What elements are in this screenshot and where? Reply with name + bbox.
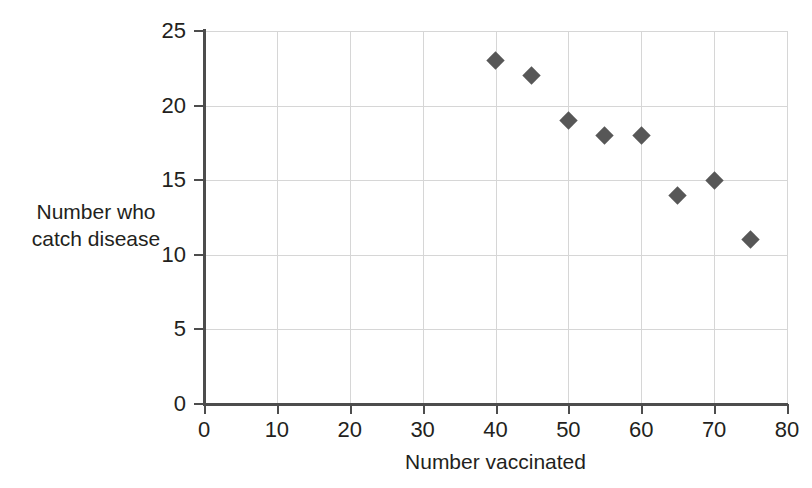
- gridline-vertical: [277, 31, 278, 404]
- gridline-horizontal: [204, 31, 787, 32]
- gridline-horizontal: [204, 106, 787, 107]
- gridline-vertical: [568, 31, 569, 404]
- x-axis-tick-label: 30: [393, 417, 453, 443]
- x-axis-tick-label: 60: [611, 417, 671, 443]
- gridline-horizontal: [204, 180, 787, 181]
- x-axis-tick: [423, 404, 425, 414]
- x-axis-tick-label: 40: [466, 417, 526, 443]
- y-axis-tick-label: 0: [128, 391, 186, 417]
- y-axis-line: [203, 29, 206, 406]
- x-axis-tick: [350, 404, 352, 414]
- gridline-vertical: [350, 31, 351, 404]
- x-axis-tick-label: 10: [247, 417, 307, 443]
- x-axis-tick-label: 80: [757, 417, 812, 443]
- gridline-horizontal: [204, 255, 787, 256]
- x-axis-tick: [787, 404, 789, 414]
- x-axis-tick: [641, 404, 643, 414]
- y-axis-tick-label: 25: [128, 18, 186, 44]
- y-axis-title-line: Number who: [8, 198, 184, 225]
- x-axis-title: Number vaccinated: [204, 449, 787, 475]
- y-axis-title: Number whocatch disease: [8, 198, 184, 252]
- gridline-vertical: [714, 31, 715, 404]
- y-axis-title-line: catch disease: [8, 225, 184, 252]
- x-axis-tick: [714, 404, 716, 414]
- y-axis-tick-label: 5: [128, 316, 186, 342]
- y-axis-tick-label: 15: [128, 167, 186, 193]
- gridline-vertical: [787, 31, 788, 404]
- y-axis-tick: [194, 179, 204, 181]
- x-axis-tick: [277, 404, 279, 414]
- y-axis-tick: [194, 105, 204, 107]
- x-axis-tick-label: 70: [684, 417, 744, 443]
- gridline-vertical: [641, 31, 642, 404]
- x-axis-tick-label: 20: [320, 417, 380, 443]
- y-axis-tick: [194, 328, 204, 330]
- gridline-vertical: [423, 31, 424, 404]
- y-axis-tick: [194, 30, 204, 32]
- x-axis-tick-label: 50: [538, 417, 598, 443]
- scatter-plot-figure: 010203040506070800510152025 Number whoca…: [0, 0, 812, 488]
- y-axis-tick-label: 20: [128, 93, 186, 119]
- gridline-horizontal: [204, 329, 787, 330]
- y-axis-tick: [194, 254, 204, 256]
- x-axis-tick: [496, 404, 498, 414]
- y-axis-tick: [194, 403, 204, 405]
- x-axis-tick: [204, 404, 206, 414]
- x-axis-tick-label: 0: [174, 417, 234, 443]
- x-axis-tick: [568, 404, 570, 414]
- plot-area: [204, 31, 787, 404]
- gridline-vertical: [496, 31, 497, 404]
